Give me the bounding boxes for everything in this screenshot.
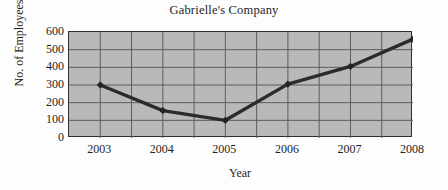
chart-figure: Gabrielle's Company No. of Employees 010… <box>0 0 448 190</box>
data-series-employees <box>69 32 413 138</box>
y-axis-tick-labels: 0100200300400500600 <box>26 31 64 137</box>
x-axis-tick-label: 2005 <box>196 142 252 156</box>
y-axis-tick-label: 500 <box>26 43 64 55</box>
y-axis-tick-label: 100 <box>26 113 64 125</box>
y-axis-tick-label: 600 <box>26 25 64 37</box>
y-axis-title: No. of Employees <box>11 0 27 103</box>
x-axis-tick-label: 2006 <box>259 142 315 156</box>
chart-title: Gabrielle's Company <box>0 3 448 18</box>
x-axis-tick-labels: 200320042005200620072008 <box>68 142 412 160</box>
x-axis-tick-label: 2003 <box>71 142 127 156</box>
x-axis-tick-label: 2007 <box>321 142 377 156</box>
y-axis-tick-label: 0 <box>26 131 64 143</box>
x-axis-tick-label: 2008 <box>384 142 440 156</box>
x-axis-tick-label: 2004 <box>134 142 190 156</box>
y-axis-tick-label: 400 <box>26 60 64 72</box>
plot-area <box>68 31 412 137</box>
x-axis-title: Year <box>68 166 412 181</box>
y-axis-tick-label: 200 <box>26 96 64 108</box>
y-axis-tick-label: 300 <box>26 78 64 90</box>
